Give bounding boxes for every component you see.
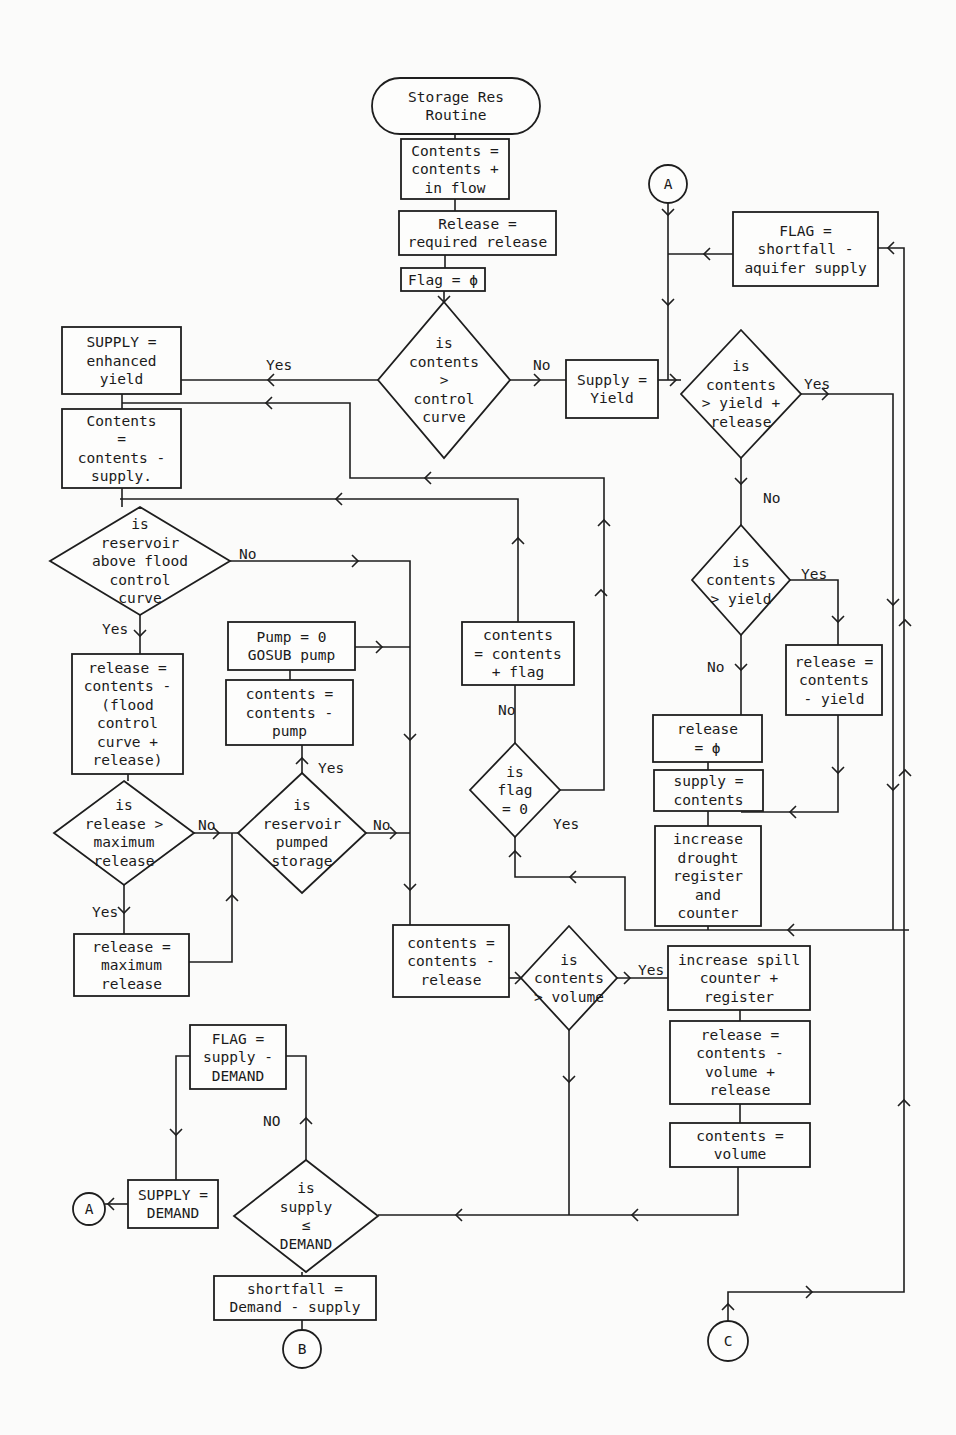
node-n-drought: increasedroughtregisterandcounter (655, 826, 761, 926)
flow-line (189, 833, 232, 962)
node-text-line: required release (408, 234, 548, 250)
node-text-line: > yield + (702, 395, 781, 411)
node-text-line: is (506, 764, 523, 780)
node-text-line: Flag = ϕ (408, 272, 478, 288)
node-n-contents-flag: contents= contents+ flag (462, 622, 574, 685)
node-n-supply-demand: SUPPLY =DEMAND (128, 1180, 218, 1228)
edge-label: No (763, 490, 780, 506)
node-text-line: contents - (696, 1045, 783, 1061)
edge-label: No (198, 817, 215, 833)
node-text-line: release (93, 853, 154, 869)
connector-b: B (283, 1330, 321, 1368)
node-text-line: contents = (407, 935, 495, 951)
node-n-flag-short: FLAG =shortfall -aquifer supply (733, 212, 878, 286)
connector-label: B (298, 1341, 307, 1357)
node-text-line: aquifer supply (744, 260, 866, 276)
node-text-line: contents - (246, 705, 333, 721)
node-n-contents-supply: Contents =contents - supply. (62, 409, 181, 488)
arrowhead-up-icon (899, 620, 911, 626)
node-n-supply-yield: Supply =Yield (566, 360, 658, 418)
connector-label: C (724, 1333, 733, 1349)
node-text-line: contents (534, 970, 604, 986)
process-box (566, 360, 658, 418)
node-n-release-vol: release =contents -volume +release (670, 1021, 810, 1104)
edge-label: No (498, 702, 515, 718)
node-text-line: contents - (84, 678, 171, 694)
node-text-line: curve (118, 590, 162, 606)
node-text-line: in flow (424, 180, 485, 196)
node-n-flag0: Flag = ϕ (401, 268, 485, 291)
edge-label: Yes (804, 376, 830, 392)
node-text-line: release = (701, 1027, 780, 1043)
node-text-line: volume (714, 1146, 766, 1162)
edge-label: Yes (318, 760, 344, 776)
connector-c: C (708, 1321, 748, 1361)
node-d-volume: iscontents> volume (521, 926, 617, 1030)
node-text-line: Storage Res (408, 89, 504, 105)
node-text-line: counter (677, 905, 738, 921)
node-text-line: control (109, 572, 170, 588)
node-text-line: is (115, 797, 132, 813)
edge-label: Yes (801, 566, 827, 582)
node-text-line: > (440, 372, 449, 388)
node-text-line: release (420, 972, 481, 988)
node-text-line: Yield (590, 390, 634, 406)
decision-diamond (238, 773, 366, 893)
node-n-maxrel: release =maximumrelease (74, 934, 189, 996)
node-n-shortfall: shortfall =Demand - supply (214, 1276, 376, 1320)
node-text-line: is (732, 554, 749, 570)
node-text-line: enhanced (87, 353, 157, 369)
node-text-line: = ϕ (694, 740, 720, 756)
flow-line (286, 1056, 306, 1160)
node-text-line: release > (85, 816, 164, 832)
node-n-supply-contents: supply =contents (654, 770, 763, 811)
node-text-line: > yield (710, 591, 771, 607)
node-text-line: volume + (705, 1064, 775, 1080)
node-text-line: is (435, 335, 452, 351)
node-n-inflow: Contents =contents + in flow (401, 139, 509, 199)
node-d-pumped: isreservoirpumpedstorage (238, 773, 366, 893)
node-text-line: yield (100, 371, 144, 387)
node-text-line: release (710, 414, 771, 430)
node-text-line: contents + (411, 161, 499, 177)
arrowhead-up-icon (899, 770, 911, 776)
edge-label: Yes (553, 816, 579, 832)
flow-line (378, 1167, 738, 1215)
edge-label: No (533, 357, 550, 373)
node-text-line: contents (706, 377, 776, 393)
node-d-yr: iscontents> yield +release (681, 330, 801, 458)
node-text-line: register (673, 868, 743, 884)
node-text-line: counter + (700, 970, 779, 986)
node-text-line: shortfall - (757, 241, 853, 257)
node-text-line: release = (795, 654, 874, 670)
flowchart-canvas: Storage ResRoutineContents =contents + i… (0, 0, 956, 1435)
node-n-enhanced: SUPPLY =enhancedyield (62, 327, 181, 394)
node-text-line: pumped (276, 834, 328, 850)
node-text-line: contents (674, 792, 744, 808)
edge-label: Yes (638, 962, 664, 978)
edge-label: No (373, 817, 390, 833)
node-n-release-cy: release =contents - yield (786, 645, 882, 715)
node-text-line: = 0 (502, 801, 528, 817)
node-text-line: shortfall = (247, 1281, 343, 1297)
node-text-line: supply = (674, 773, 744, 789)
node-text-line: contents - (78, 450, 165, 466)
node-text-line: release) (93, 752, 163, 768)
node-text-line: flag (498, 782, 533, 798)
node-text-line: DEMAND (147, 1205, 199, 1221)
node-text-line: contents (706, 572, 776, 588)
decision-diamond (234, 1160, 378, 1272)
node-text-line: Pump = 0 (257, 629, 327, 645)
node-text-line: maximum (93, 834, 154, 850)
node-n-release-req: Release =required release (399, 211, 556, 255)
node-text-line: Demand - supply (230, 1299, 361, 1315)
node-text-line: is (297, 1180, 314, 1196)
node-text-line: = (117, 431, 126, 447)
node-n-contents-release: contents =contents -release (393, 925, 509, 997)
node-text-line: contents (799, 672, 869, 688)
connector-a: A (649, 165, 687, 203)
node-text-line: contents - (407, 953, 494, 969)
node-d-yield: iscontents> yield (692, 525, 790, 635)
node-text-line: Routine (425, 107, 486, 123)
node-text-line: drought (677, 850, 738, 866)
